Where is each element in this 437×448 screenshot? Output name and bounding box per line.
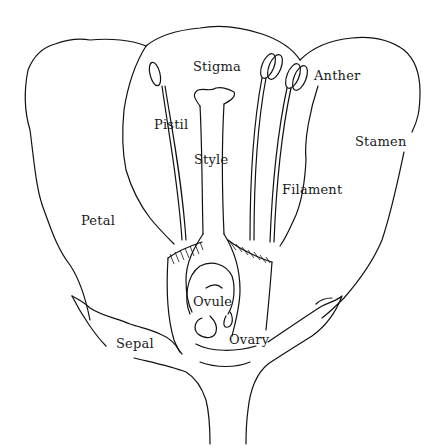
- right-hatch-region: [228, 240, 272, 262]
- label-stamen: Stamen: [355, 135, 406, 148]
- right-anther-1b: [265, 53, 286, 82]
- center-petal-left-edge: [123, 46, 174, 244]
- label-style: Style: [194, 153, 228, 166]
- label-stigma: Stigma: [193, 60, 241, 73]
- label-filament: Filament: [282, 183, 342, 196]
- center-petal-right-edge: [280, 86, 318, 246]
- left-anther: [147, 61, 163, 87]
- label-ovule: Ovule: [193, 295, 232, 308]
- right-filament-2: [270, 88, 287, 242]
- right-petal-edge: [322, 152, 404, 318]
- left-sepal-base: [134, 358, 210, 444]
- right-anther-2b: [290, 64, 311, 93]
- right-sepal: [246, 296, 342, 444]
- label-anther: Anther: [314, 69, 360, 82]
- style-right: [223, 104, 225, 234]
- label-ovary: Ovary: [229, 333, 269, 346]
- left-petal: [25, 39, 146, 320]
- left-filament: [162, 86, 182, 240]
- style-left: [200, 106, 203, 234]
- ovary-base-arc-2: [200, 362, 250, 367]
- label-petal: Petal: [81, 214, 115, 227]
- ovule-inner: [206, 285, 222, 288]
- left-sepal-lower: [72, 296, 106, 346]
- stigma-top: [194, 87, 234, 106]
- label-pistil: Pistil: [154, 118, 188, 131]
- right-filament-1b: [254, 78, 266, 240]
- right-petal: [300, 38, 420, 133]
- left-filament-2: [165, 86, 186, 240]
- ovule-hook-left: [195, 316, 217, 338]
- ovary-outer-right: [266, 262, 272, 330]
- label-sepal: Sepal: [116, 337, 154, 350]
